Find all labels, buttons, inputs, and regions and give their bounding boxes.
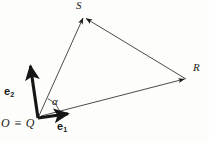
basis-vector-e2 bbox=[30, 66, 38, 118]
vector-origin-to-R bbox=[41, 79, 185, 116]
vector-diagram-figure: S R O ≡ Q e1 e2 α bbox=[0, 0, 209, 142]
e1-subscript: 1 bbox=[63, 126, 67, 134]
angle-label-alpha: α bbox=[52, 96, 58, 107]
vector-origin-to-S bbox=[38, 18, 83, 118]
basis-vector-label-e2: e2 bbox=[4, 86, 14, 97]
basis-vector-label-e1: e1 bbox=[57, 121, 67, 132]
point-label-S: S bbox=[76, 0, 82, 11]
point-label-origin: O ≡ Q bbox=[1, 117, 35, 129]
e2-subscript: 2 bbox=[10, 91, 14, 99]
vector-R-to-S bbox=[86, 19, 186, 80]
basis-vector-e1 bbox=[38, 114, 68, 118]
point-label-R: R bbox=[193, 62, 200, 73]
